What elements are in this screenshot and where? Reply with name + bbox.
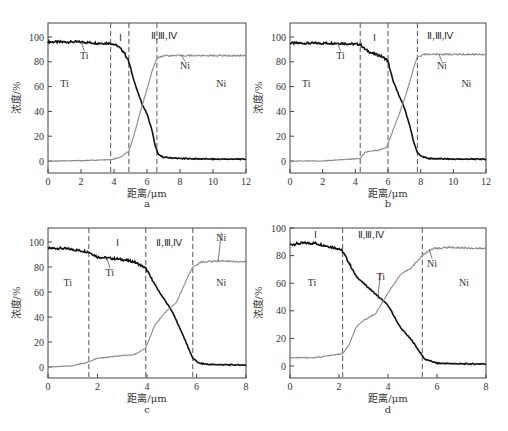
region-label: Ⅰ (119, 32, 122, 43)
panel-a: 020406080100024681012距离/μm浓度/%aTiⅠⅡ,Ⅲ,ⅣN… (10, 23, 251, 209)
region-label: Ni (461, 78, 471, 89)
x-tick-label: 2 (79, 176, 84, 187)
y-tick-label: 100 (29, 237, 44, 248)
y-tick-label: 60 (276, 81, 286, 92)
x-tick-label: 10 (448, 176, 458, 187)
x-tick-label: 0 (46, 176, 51, 187)
y-tick-label: 0 (281, 361, 286, 372)
region-label: Ⅰ (314, 229, 317, 240)
x-tick-label: 6 (145, 176, 150, 187)
curve-label-ni: Ni (437, 60, 447, 71)
y-axis-label: 浓度/% (252, 287, 264, 320)
y-tick-label: 20 (276, 333, 286, 344)
region-label: Ⅱ,Ⅲ,Ⅳ (151, 30, 178, 41)
y-tick-label: 80 (34, 56, 44, 67)
y-tick-label: 60 (276, 278, 286, 289)
x-tick-label: 0 (46, 381, 51, 392)
plot-frame (290, 228, 486, 378)
region-label: Ⅰ (373, 32, 376, 43)
y-tick-label: 60 (34, 81, 44, 92)
y-tick-label: 60 (34, 287, 44, 298)
y-tick-label: 20 (34, 337, 44, 348)
x-tick-label: 0 (288, 381, 293, 392)
x-tick-label: 0 (288, 176, 293, 187)
x-tick-label: 8 (178, 176, 183, 187)
region-label: Ⅱ,Ⅲ,Ⅳ (358, 229, 385, 240)
series-ti-line (48, 247, 246, 365)
x-tick-label: 4 (145, 381, 150, 392)
x-tick-label: 10 (208, 176, 218, 187)
region-label: Ni (216, 78, 226, 89)
y-axis-label: 浓度/% (10, 287, 22, 320)
y-tick-label: 80 (276, 56, 286, 67)
x-tick-label: 6 (194, 381, 199, 392)
x-tick-label: 8 (244, 381, 249, 392)
y-tick-label: 100 (271, 223, 286, 234)
figure-canvas: 020406080100024681012距离/μm浓度/%aTiⅠⅡ,Ⅲ,ⅣN… (0, 0, 508, 431)
plot-frame (48, 23, 246, 173)
y-tick-label: 0 (39, 362, 44, 373)
series-ni-line (290, 247, 486, 359)
curve-label-ni: Ni (427, 258, 437, 269)
panel-c: 02040608010002468距离/μm浓度/%cTiⅠⅡ,Ⅲ,ⅣNiTiN… (10, 228, 249, 415)
y-axis-label: 浓度/% (252, 82, 264, 115)
y-tick-label: 40 (276, 305, 286, 316)
x-tick-label: 4 (386, 381, 391, 392)
y-tick-label: 80 (276, 250, 286, 261)
series-ti-line (290, 242, 486, 364)
curve-label-ti: Ti (80, 50, 89, 61)
y-tick-label: 40 (276, 106, 286, 117)
x-tick-label: 8 (484, 381, 489, 392)
x-tick-label: 2 (320, 176, 325, 187)
panel-d: 02040608010002468距离/μm浓度/%dTiⅠⅡ,Ⅲ,ⅣNiTiN… (252, 223, 489, 416)
x-tick-label: 6 (386, 176, 391, 187)
region-label: Ti (60, 78, 69, 89)
y-tick-label: 100 (29, 32, 44, 43)
panel-caption: c (144, 404, 150, 415)
y-tick-label: 100 (271, 32, 286, 43)
panel-caption: d (385, 404, 392, 415)
region-label: Ⅱ,Ⅲ,Ⅳ (156, 237, 183, 248)
y-tick-label: 0 (39, 156, 44, 167)
region-label: Ti (64, 277, 73, 288)
y-tick-label: 20 (276, 131, 286, 142)
y-tick-label: 20 (34, 131, 44, 142)
x-axis-label: 距离/μm (368, 392, 408, 404)
y-tick-label: 40 (34, 312, 44, 323)
panel-caption: b (385, 198, 391, 209)
x-tick-label: 8 (418, 176, 423, 187)
x-tick-label: 4 (112, 176, 117, 187)
series-ti-line (48, 41, 246, 160)
region-label: Ti (308, 277, 317, 288)
x-tick-label: 12 (481, 176, 491, 187)
curve-label-ni: Ni (180, 60, 190, 71)
y-tick-label: 0 (281, 156, 286, 167)
curve-label-ti: Ti (106, 267, 115, 278)
series-ni-line (48, 55, 246, 161)
panel-b: 020406080100024681012距离/μm浓度/%bTiⅠⅡ,Ⅲ,ⅣN… (252, 23, 491, 209)
x-tick-label: 6 (435, 381, 440, 392)
region-label: Ⅰ (116, 237, 119, 248)
panel-caption: a (144, 198, 150, 209)
x-tick-label: 12 (241, 176, 251, 187)
y-tick-label: 40 (34, 106, 44, 117)
region-label: Ni (216, 277, 226, 288)
region-label: Ti (302, 78, 311, 89)
x-tick-label: 2 (95, 381, 100, 392)
y-axis-label: 浓度/% (10, 82, 22, 115)
region-label: Ⅱ,Ⅲ,Ⅳ (427, 30, 454, 41)
y-tick-label: 80 (34, 262, 44, 273)
curve-label-ti: Ti (336, 50, 345, 61)
x-tick-label: 4 (353, 176, 358, 187)
region-label: Ni (459, 277, 469, 288)
x-tick-label: 2 (337, 381, 342, 392)
x-axis-label: 距离/μm (127, 392, 167, 404)
